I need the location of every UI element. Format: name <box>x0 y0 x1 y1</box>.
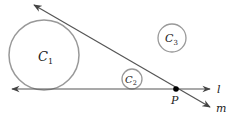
label-c1: C1 <box>38 49 53 66</box>
label-point-p: P <box>170 94 179 107</box>
point-p <box>173 86 179 92</box>
label-line-m: m <box>216 102 226 115</box>
label-c3: C3 <box>165 32 178 47</box>
label-line-l: l <box>217 83 221 96</box>
line-m <box>34 5 210 107</box>
label-c2: C2 <box>125 74 137 87</box>
tangent-circles-diagram: C1 C2 C3 l m P <box>0 0 236 118</box>
